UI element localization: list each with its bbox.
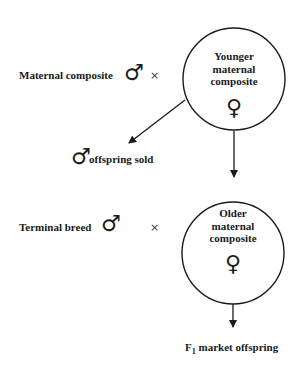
- older-node-label: Older maternal composite: [193, 207, 273, 245]
- male-symbol-icon: ♂: [71, 146, 91, 168]
- maternal-composite-sire-label: Maternal composite: [19, 69, 113, 81]
- label-line: maternal: [194, 63, 274, 76]
- cross-symbol: ×: [150, 69, 159, 82]
- female-symbol-icon: ♀: [226, 97, 242, 119]
- label-line: composite: [193, 232, 273, 245]
- label-line: Younger: [194, 50, 274, 63]
- label-line: maternal: [193, 220, 273, 233]
- label-line: Older: [193, 207, 273, 220]
- arrow-to-male-offspring: [129, 100, 185, 143]
- offspring-sold-label: offspring sold: [89, 153, 154, 165]
- market-offspring-text: market offspring: [198, 341, 278, 353]
- f-prefix: F: [185, 341, 192, 353]
- male-symbol-icon: ♂: [124, 62, 144, 84]
- terminal-breed-sire-label: Terminal breed: [19, 221, 91, 233]
- generation-subscript: 1: [192, 347, 196, 356]
- label-line: composite: [194, 75, 274, 88]
- male-symbol-icon: ♂: [101, 213, 121, 235]
- cross-symbol: ×: [150, 221, 159, 234]
- market-offspring-label: F1 market offspring: [185, 341, 278, 356]
- female-symbol-icon: ♀: [225, 253, 241, 275]
- younger-node-label: Younger maternal composite: [194, 50, 274, 88]
